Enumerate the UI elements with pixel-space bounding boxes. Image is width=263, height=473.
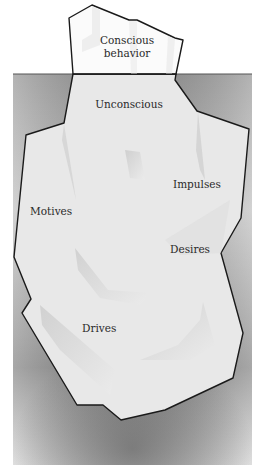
- label-drives: Drives: [82, 322, 116, 334]
- iceberg-diagram: Conscious behavior Unconscious Impulses …: [0, 0, 263, 473]
- iceberg-svg: Conscious behavior Unconscious Impulses …: [0, 0, 263, 473]
- label-conscious: Conscious: [100, 34, 154, 46]
- label-desires: Desires: [170, 243, 210, 255]
- label-behavior: behavior: [104, 47, 152, 59]
- label-motives: Motives: [30, 205, 72, 217]
- label-unconscious: Unconscious: [95, 98, 163, 110]
- label-impulses: Impulses: [173, 178, 221, 190]
